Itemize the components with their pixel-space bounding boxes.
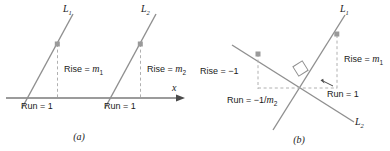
annotation-run-neg-inv-m2: Run = −1/m2 (227, 94, 278, 107)
run-1-pointer-arrow-icon (321, 79, 334, 86)
panel-b-perpendicular-lines: L1 L2 Rise = −1 Rise = m1 Run = −1/m2 Ru… (195, 0, 390, 151)
point-marker-L2 (256, 52, 261, 57)
panel-b-caption: (b) (293, 134, 305, 146)
annotation-run-1-right: Run = 1 (104, 101, 136, 111)
line-label-L2: L2 (140, 3, 151, 16)
annotation-run-1: Run = 1 (327, 89, 359, 99)
x-axis-arrowhead (176, 94, 185, 101)
line-L2 (105, 14, 156, 108)
annotation-rise-m1: Rise = m1 (64, 63, 104, 76)
line-L1 (22, 14, 73, 108)
line-label-L1: L1 (62, 3, 72, 16)
line-label-L2: L2 (354, 116, 365, 129)
annotation-rise-neg1: Rise = −1 (200, 66, 239, 76)
figure-root: x L1 L2 Rise = m1 Rise = m2 Run = 1 Run … (0, 0, 390, 151)
annotation-rise-m1: Rise = m1 (344, 53, 384, 66)
line-L1 (273, 15, 345, 130)
point-marker-2 (138, 42, 143, 47)
line-label-L1: L1 (339, 3, 349, 16)
panel-a-caption: (a) (73, 131, 85, 143)
point-marker-L1 (334, 32, 339, 37)
annotation-rise-m2: Rise = m2 (147, 63, 187, 76)
right-angle-square-icon (293, 61, 308, 76)
annotation-run-1-left: Run = 1 (21, 101, 53, 111)
line-L2 (232, 45, 354, 122)
panel-a-parallel-lines: x L1 L2 Rise = m1 Rise = m2 Run = 1 Run … (0, 0, 195, 151)
x-axis-label: x (171, 82, 177, 93)
point-marker-1 (55, 42, 60, 47)
